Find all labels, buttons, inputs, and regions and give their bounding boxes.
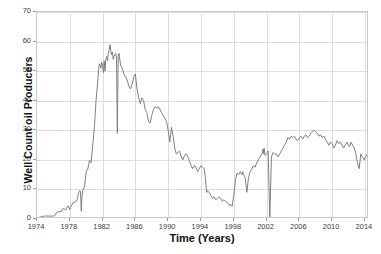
chart-container: Well Count oil Producers 010203040506070… [0, 0, 381, 254]
x-tick-label: 1990 [159, 223, 176, 231]
x-tick-mark [134, 218, 135, 221]
x-tick-label: 2014 [356, 223, 373, 231]
y-tick-label: 70 [23, 7, 31, 15]
y-tick-label: 40 [23, 96, 31, 104]
x-tick-label: 2006 [290, 223, 307, 231]
x-tick-label: 1978 [60, 223, 77, 231]
x-tick-mark [102, 218, 103, 221]
x-tick-mark [233, 218, 234, 221]
x-tick-mark [364, 218, 365, 221]
x-tick-label: 1986 [126, 223, 143, 231]
x-tick-mark [298, 218, 299, 221]
x-tick-label: 1974 [28, 223, 45, 231]
x-tick-mark [266, 218, 267, 221]
x-tick-mark [200, 218, 201, 221]
data-series-line [37, 12, 368, 218]
x-tick-label: 1998 [224, 223, 241, 231]
y-tick-label: 50 [23, 66, 31, 74]
x-axis-title: Time (Years) [36, 232, 368, 244]
y-axis-ticks: 010203040506070 [0, 0, 36, 254]
y-tick-label: 30 [23, 126, 31, 134]
x-tick-mark [167, 218, 168, 221]
x-tick-label: 1994 [192, 223, 209, 231]
y-tick-label: 60 [23, 37, 31, 45]
y-tick-label: 10 [23, 185, 31, 193]
x-tick-mark [36, 218, 37, 221]
x-tick-label: 2010 [323, 223, 340, 231]
x-tick-label: 2002 [257, 223, 274, 231]
plot-area [36, 11, 368, 218]
x-tick-label: 1982 [93, 223, 110, 231]
x-tick-mark [331, 218, 332, 221]
x-tick-mark [69, 218, 70, 221]
series-path [37, 45, 367, 218]
y-tick-label: 20 [23, 155, 31, 163]
